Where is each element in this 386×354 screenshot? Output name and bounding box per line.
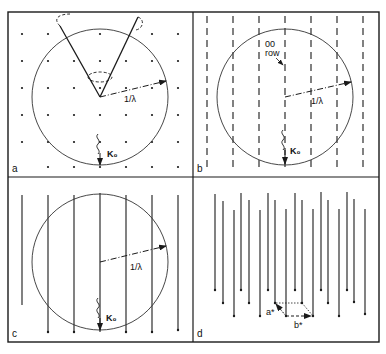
panel-d: a* b* d: [197, 192, 366, 339]
panel-a: 1/λ K₀ a: [12, 14, 179, 174]
incident-beam-wave: [97, 298, 99, 318]
cone-top-right: [135, 17, 142, 30]
row-pointer: [276, 58, 283, 65]
cone-edge-left: [60, 26, 100, 97]
panel-c: 1/λ K₀ c: [12, 193, 179, 339]
panel-label-b: b: [197, 163, 203, 174]
lattice-rods: [215, 192, 365, 316]
panel-b: [207, 16, 363, 172]
lattice-rods: [22, 193, 178, 332]
cell-edge-right: [302, 303, 313, 316]
radius-label: 1/λ: [124, 94, 137, 104]
radius-vector: [100, 246, 166, 262]
radius-label: 1/λ: [311, 96, 324, 106]
panel-label-a: a: [12, 163, 18, 174]
incident-beam-wave: [97, 134, 99, 154]
panel-label-d: d: [197, 328, 203, 339]
lattice-points: [21, 33, 179, 168]
row-label-row: row: [265, 48, 280, 58]
panel-b-overlay: 00 row 1/λ K₀ b: [197, 29, 353, 174]
a-star-label: a*: [266, 307, 275, 317]
panel-label-c: c: [12, 328, 17, 339]
beam-label: K₀: [106, 313, 117, 323]
beam-label: K₀: [107, 149, 118, 159]
radius-label: 1/λ: [130, 262, 143, 272]
cone-top-left: [57, 14, 70, 26]
incident-beam-wave: [282, 130, 284, 150]
cone-cross-section: [88, 72, 112, 82]
radius-vector: [285, 82, 351, 97]
b-star-label: b*: [294, 320, 303, 330]
a-star-vector: [276, 304, 286, 316]
beam-label: K₀: [290, 146, 301, 156]
ewald-figure: 1/λ K₀ a 00 row 1/λ K₀ b: [0, 0, 386, 354]
